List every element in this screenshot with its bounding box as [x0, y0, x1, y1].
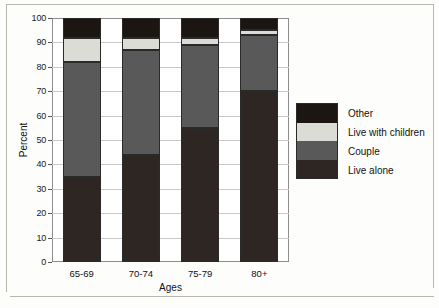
bar-segment[interactable] [63, 62, 101, 177]
legend-label: Live with children [348, 126, 425, 137]
bar-segment[interactable] [240, 18, 278, 30]
y-tick-mark [48, 116, 52, 117]
legend-swatch [297, 160, 337, 179]
x-axis-title: Ages [52, 282, 289, 293]
y-tick-label: 20 [36, 208, 46, 218]
y-tick-label: 90 [36, 37, 46, 47]
bar-75-79[interactable] [181, 18, 219, 262]
x-tick-label: 65-69 [69, 268, 93, 279]
bar-80+[interactable] [240, 18, 278, 262]
bar-segment[interactable] [240, 35, 278, 91]
legend-swatch [297, 141, 337, 160]
bar-segment[interactable] [63, 177, 101, 262]
page-frame-top [6, 4, 434, 5]
y-tick-label: 30 [36, 184, 46, 194]
legend-label: Other [348, 107, 373, 118]
y-tick-mark [48, 91, 52, 92]
bar-segment[interactable] [122, 18, 160, 38]
y-tick-label: 60 [36, 111, 46, 121]
bar-segment[interactable] [181, 38, 219, 45]
bar-70-74[interactable] [122, 18, 160, 262]
y-axis-title: Percent [18, 123, 29, 157]
bar-segment[interactable] [240, 30, 278, 35]
legend-label: Couple [348, 145, 380, 156]
bar-segment[interactable] [240, 91, 278, 262]
bar-segment[interactable] [122, 38, 160, 50]
page-frame-right [433, 4, 434, 288]
chart-figure: 0102030405060708090100 65-6970-7475-7980… [0, 0, 439, 308]
plot-area: 0102030405060708090100 65-6970-7475-7980… [52, 18, 289, 262]
y-tick-label: 50 [36, 135, 46, 145]
bar-segment[interactable] [181, 45, 219, 128]
legend-swatch-stack [296, 103, 338, 179]
y-tick-label: 0 [41, 257, 46, 267]
bar-segment[interactable] [122, 155, 160, 262]
page-frame-left [6, 4, 7, 292]
bar-segment[interactable] [181, 128, 219, 262]
y-tick-mark [48, 42, 52, 43]
y-tick-mark [48, 140, 52, 141]
y-tick-mark [48, 18, 52, 19]
y-tick-mark [48, 164, 52, 165]
x-tick-label: 70-74 [129, 268, 153, 279]
y-tick-label: 10 [36, 233, 46, 243]
y-tick-label: 80 [36, 62, 46, 72]
y-tick-label: 100 [32, 13, 46, 23]
bar-65-69[interactable] [63, 18, 101, 262]
y-tick-mark [48, 262, 52, 263]
y-tick-label: 70 [36, 86, 46, 96]
page-frame-bottom [10, 296, 434, 297]
bar-segment[interactable] [63, 38, 101, 62]
y-tick-mark [48, 189, 52, 190]
legend-label: Live alone [348, 164, 394, 175]
legend-swatch [297, 104, 337, 123]
x-tick-label: 75-79 [188, 268, 212, 279]
bar-segment[interactable] [181, 18, 219, 38]
y-tick-label: 40 [36, 159, 46, 169]
bar-segment[interactable] [122, 50, 160, 155]
y-tick-mark [48, 213, 52, 214]
x-tick-label: 80+ [251, 268, 267, 279]
bar-segment[interactable] [63, 18, 101, 38]
legend-swatch [297, 123, 337, 142]
y-tick-mark [48, 67, 52, 68]
y-tick-mark [48, 238, 52, 239]
